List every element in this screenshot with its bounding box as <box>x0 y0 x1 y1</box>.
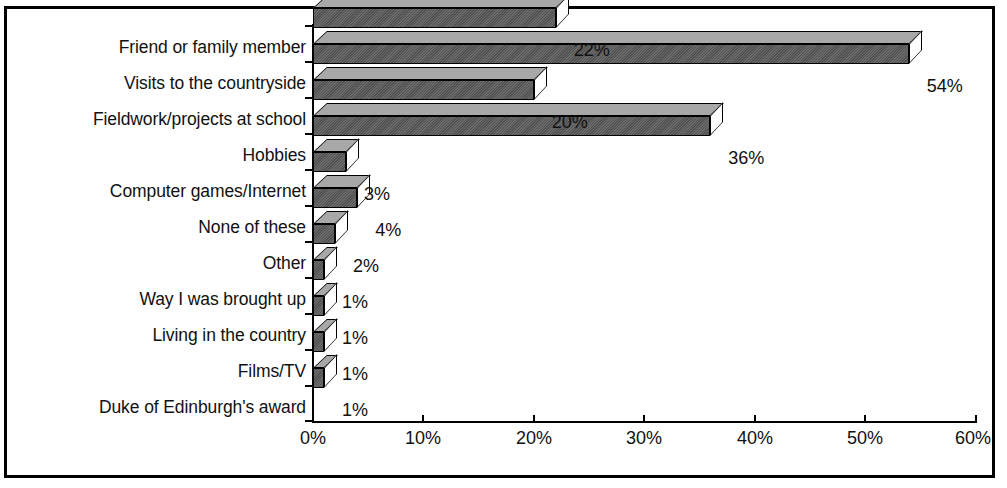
bar-front-face <box>313 8 556 28</box>
bar-front-face <box>313 296 324 316</box>
x-axis-tick-label: 20% <box>516 428 552 449</box>
category-label: Living in the country <box>152 327 306 345</box>
y-axis-tick <box>305 420 312 422</box>
y-axis-tick <box>305 241 312 243</box>
bar-value-label: 3% <box>364 185 390 203</box>
bar-top-face <box>313 67 548 80</box>
bar-front-face <box>313 80 534 100</box>
bar-value-label: 1% <box>342 293 368 311</box>
bar-end-cap <box>556 0 569 28</box>
category-label: Duke of Edinburgh's award <box>99 399 306 417</box>
bar-value-label: 22% <box>574 41 610 59</box>
bar-front-face <box>313 116 710 136</box>
category-label: Fieldwork/projects at school <box>93 111 306 129</box>
x-axis-tick-label: 50% <box>847 428 883 449</box>
x-axis-tick <box>312 415 314 423</box>
y-axis-tick <box>305 169 312 171</box>
x-axis-tick <box>422 415 424 423</box>
y-axis-tick <box>305 277 312 279</box>
bar-value-label: 1% <box>342 365 368 383</box>
x-axis-tick-label: 0% <box>300 428 326 449</box>
bar-value-label: 1% <box>342 329 368 347</box>
bar-front-face <box>313 224 335 244</box>
x-axis-tick-label: 60% <box>955 428 991 449</box>
x-axis-tick <box>533 415 535 423</box>
category-label: Other <box>263 255 306 273</box>
bar-front-face <box>313 260 324 280</box>
y-axis-tick <box>305 61 312 63</box>
bar-value-label: 36% <box>728 149 764 167</box>
category-label: Films/TV <box>238 363 306 381</box>
x-axis-tick <box>754 415 756 423</box>
x-axis-tick <box>864 415 866 423</box>
bar-value-label: 54% <box>927 77 963 95</box>
category-label: None of these <box>198 219 306 237</box>
x-axis-tick-label: 10% <box>405 428 441 449</box>
bar-value-label: 2% <box>353 257 379 275</box>
category-label: Visits to the countryside <box>124 75 306 93</box>
bar-value-label: 20% <box>552 113 588 131</box>
chart-screenshot: Friend or family member Visits to the co… <box>0 0 1007 488</box>
y-axis-tick <box>305 97 312 99</box>
x-axis-tick <box>643 415 645 423</box>
y-axis-tick <box>305 205 312 207</box>
bar-front-face <box>313 44 909 64</box>
bar-front-face <box>313 368 324 388</box>
y-axis-tick <box>305 349 312 351</box>
y-axis-tick <box>305 313 312 315</box>
category-label: Computer games/Internet <box>110 183 306 201</box>
bar-top-face <box>313 103 724 116</box>
x-axis-tick <box>975 415 977 423</box>
bar-front-face <box>313 332 324 352</box>
category-label: Friend or family member <box>119 39 306 57</box>
bar-top-face <box>313 31 923 44</box>
y-axis-tick <box>305 133 312 135</box>
x-axis-tick-label: 30% <box>626 428 662 449</box>
bar-value-label: 4% <box>375 221 401 239</box>
category-label: Way I was brought up <box>139 291 306 309</box>
x-axis-tick-label: 40% <box>737 428 773 449</box>
bar-front-face <box>313 152 346 172</box>
bar-top-face <box>313 0 570 8</box>
y-axis-tick <box>305 25 312 27</box>
bar-front-face <box>313 188 357 208</box>
bar-chart-plot-area: Friend or family member Visits to the co… <box>0 0 1007 488</box>
y-axis-tick <box>305 385 312 387</box>
category-label: Hobbies <box>242 147 306 165</box>
bar-value-label: 1% <box>342 401 368 419</box>
